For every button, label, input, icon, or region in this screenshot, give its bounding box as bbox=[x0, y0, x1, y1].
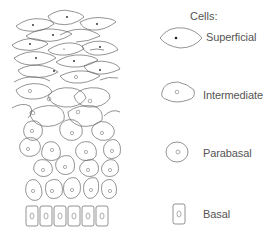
legend-title: Cells: bbox=[190, 10, 218, 22]
legend-label-parabasal: Parabasal bbox=[203, 147, 252, 159]
legend-label-basal: Basal bbox=[203, 208, 230, 220]
basal-cell-icon bbox=[173, 204, 185, 224]
parabasal-cell-icon bbox=[166, 142, 188, 162]
basal-layer bbox=[26, 206, 108, 226]
legend-label-superficial: Superficial bbox=[206, 31, 256, 43]
lower-parabasal-layer bbox=[26, 178, 117, 201]
superficial-layer bbox=[12, 10, 120, 83]
intermediate-cell-icon bbox=[162, 82, 195, 102]
parabasal-layer bbox=[20, 120, 121, 177]
legend-label-intermediate: Intermediate bbox=[203, 89, 263, 101]
superficial-cell-icon bbox=[160, 28, 202, 48]
